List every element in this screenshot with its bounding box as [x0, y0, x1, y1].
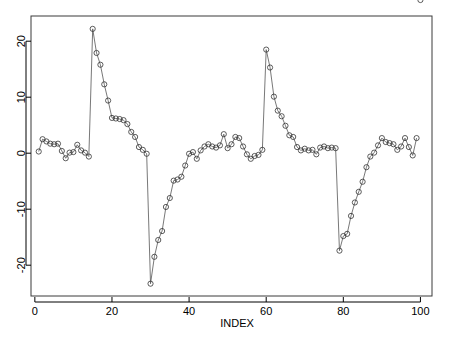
- x-axis-title: INDEX: [220, 317, 254, 329]
- series-data-point: [418, 0, 423, 3]
- chart-svg: -20-1001020 020406080100 INDEX: [0, 0, 450, 346]
- y-axis-tick-label: -20: [15, 257, 27, 273]
- x-axis-tick-label: 20: [106, 305, 118, 317]
- x-axis-tick-label: 100: [411, 305, 429, 317]
- y-axis-tick-label: -10: [15, 201, 27, 217]
- x-axis-tick-label: 60: [260, 305, 272, 317]
- y-axis-tick-label: 0: [15, 150, 27, 156]
- y-axis: -20-1001020: [15, 35, 31, 273]
- y-axis-tick-label: 20: [15, 35, 27, 47]
- y-axis-tick-label: 10: [15, 91, 27, 103]
- data-series: [36, 0, 423, 286]
- chart-plot-area: -20-1001020 020406080100 INDEX: [0, 0, 450, 346]
- x-axis-tick-label: 80: [337, 305, 349, 317]
- x-axis-tick-label: 0: [32, 305, 38, 317]
- series-polyline: [39, 29, 417, 284]
- x-axis-tick-label: 40: [183, 305, 195, 317]
- x-axis: 020406080100: [32, 297, 430, 317]
